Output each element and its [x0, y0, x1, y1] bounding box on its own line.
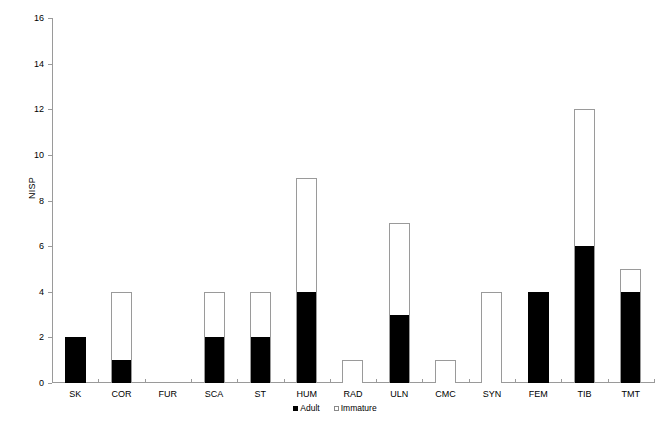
- bar-group-syn: [469, 18, 515, 383]
- bar-segment-immature: [389, 223, 410, 314]
- x-tick-mark: [654, 379, 655, 383]
- bar-group-fur: [145, 18, 191, 383]
- stacked-bar-sca: [204, 292, 225, 383]
- x-axis-labels: SKCORFURSCASTHUMRADULNCMCSYNFEMTIBTMT: [52, 388, 654, 404]
- stacked-bar-cmc: [435, 360, 456, 383]
- bar-segment-adult: [65, 337, 86, 383]
- y-tick-label: 0: [39, 379, 44, 388]
- bar-group-fem: [515, 18, 561, 383]
- legend-item-adult: Adult: [293, 403, 319, 413]
- bar-segment-adult: [574, 246, 595, 383]
- bar-segment-immature: [342, 360, 363, 383]
- bar-group-cmc: [422, 18, 468, 383]
- bar-segment-adult: [204, 337, 225, 383]
- bar-segment-immature: [111, 292, 132, 360]
- stacked-bar-uln: [389, 223, 410, 383]
- filled-square-icon: [293, 406, 298, 411]
- x-axis-label-rad: RAD: [330, 388, 376, 400]
- chart-legend: Adult Immature: [0, 403, 670, 413]
- y-tick-label: 6: [39, 242, 44, 251]
- bar-group-cor: [98, 18, 144, 383]
- stacked-bar-fem: [528, 292, 549, 383]
- bar-segment-immature: [435, 360, 456, 383]
- stacked-bar-cor: [111, 292, 132, 383]
- bar-group-st: [237, 18, 283, 383]
- bar-group-uln: [376, 18, 422, 383]
- bar-segment-adult: [111, 360, 132, 383]
- bar-segment-immature: [296, 178, 317, 292]
- stacked-bar-st: [250, 292, 271, 383]
- bar-segment-immature: [481, 292, 502, 383]
- x-axis-label-syn: SYN: [469, 388, 515, 400]
- stacked-bar-rad: [342, 360, 363, 383]
- x-axis-label-tmt: TMT: [608, 388, 654, 400]
- stacked-bar-tmt: [620, 269, 641, 383]
- y-tick-label: 16: [34, 14, 44, 23]
- x-axis-label-st: ST: [237, 388, 283, 400]
- bar-group-rad: [330, 18, 376, 383]
- bar-segment-adult: [620, 292, 641, 383]
- y-tick-label: 14: [34, 59, 44, 68]
- bar-segment-adult: [250, 337, 271, 383]
- bar-segment-adult: [296, 292, 317, 383]
- x-axis-label-fur: FUR: [145, 388, 191, 400]
- bar-group-hum: [284, 18, 330, 383]
- x-axis-label-hum: HUM: [284, 388, 330, 400]
- bar-segment-immature: [574, 109, 595, 246]
- bar-segment-adult: [389, 315, 410, 383]
- stacked-bar-sk: [65, 337, 86, 383]
- x-axis-label-sca: SCA: [191, 388, 237, 400]
- bar-group-tmt: [608, 18, 654, 383]
- stacked-bar-chart: NISP 0246810121416 SKCORFURSCASTHUMRADUL…: [0, 0, 670, 429]
- x-axis-label-cmc: CMC: [422, 388, 468, 400]
- x-axis-label-uln: ULN: [376, 388, 422, 400]
- y-tick-label: 2: [39, 333, 44, 342]
- stacked-bar-hum: [296, 178, 317, 383]
- y-tick-label: 12: [34, 105, 44, 114]
- bar-segment-immature: [620, 269, 641, 292]
- bar-segment-immature: [250, 292, 271, 338]
- x-axis-label-cor: COR: [98, 388, 144, 400]
- stacked-bar-syn: [481, 292, 502, 383]
- bar-segment-adult: [528, 292, 549, 383]
- y-tick-label: 10: [34, 150, 44, 159]
- bar-segment-immature: [204, 292, 225, 338]
- bars-container: [52, 18, 654, 383]
- x-axis-label-sk: SK: [52, 388, 98, 400]
- stacked-bar-tib: [574, 109, 595, 383]
- legend-item-immature: Immature: [334, 403, 377, 413]
- bar-group-sk: [52, 18, 98, 383]
- y-tick-label: 8: [39, 196, 44, 205]
- x-axis-label-tib: TIB: [561, 388, 607, 400]
- plot-area: 0246810121416: [52, 18, 654, 383]
- bar-group-sca: [191, 18, 237, 383]
- bar-group-tib: [561, 18, 607, 383]
- y-tick-label: 4: [39, 287, 44, 296]
- open-square-icon: [334, 406, 339, 411]
- y-tick-mark: [48, 383, 52, 384]
- legend-label-immature: Immature: [341, 403, 377, 413]
- legend-label-adult: Adult: [300, 403, 319, 413]
- x-axis-label-fem: FEM: [515, 388, 561, 400]
- y-axis-label: NISP: [27, 158, 37, 218]
